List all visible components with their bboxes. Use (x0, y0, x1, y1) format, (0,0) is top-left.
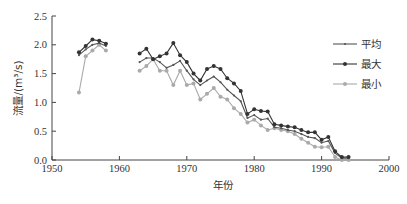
data-point (259, 123, 263, 127)
data-point (253, 114, 255, 116)
legend-marker-icon (343, 62, 347, 66)
data-point (219, 95, 223, 99)
legend: 平均最大最小 (333, 38, 382, 90)
legend-label: 最大 (361, 58, 382, 70)
y-ticks: 0.00.51.01.52.02.5 (34, 11, 56, 166)
data-point (259, 109, 263, 113)
data-point (165, 69, 169, 73)
data-point (300, 133, 302, 135)
data-point (267, 117, 269, 119)
y-tick-label: 0.5 (34, 126, 47, 137)
data-point (185, 83, 189, 87)
data-point (138, 51, 142, 55)
data-point (299, 137, 303, 141)
data-point (213, 75, 215, 77)
data-point (314, 137, 316, 139)
legend-item: 最大 (333, 58, 382, 70)
data-point (158, 54, 162, 58)
data-point (77, 50, 81, 54)
data-point (85, 48, 87, 50)
data-point (84, 54, 88, 58)
data-point (293, 125, 297, 129)
series-max (77, 38, 351, 160)
data-point (272, 122, 276, 126)
data-point (158, 69, 162, 73)
data-point (192, 81, 196, 85)
data-point (273, 126, 275, 128)
series-line (140, 58, 349, 158)
data-point (198, 79, 202, 83)
data-point (205, 67, 209, 71)
legend-label: 最小 (361, 78, 382, 90)
data-point (326, 145, 330, 149)
data-point (178, 53, 182, 57)
data-point (219, 67, 223, 71)
series-min (77, 43, 351, 162)
flow-chart: 0.00.51.01.52.02.5 195019601970198019902… (0, 0, 407, 204)
data-point (192, 72, 196, 76)
data-point (280, 127, 282, 129)
data-point (225, 98, 229, 102)
data-point (205, 92, 209, 96)
data-point (165, 51, 169, 55)
data-point (239, 112, 243, 116)
data-point (252, 118, 256, 122)
x-tick-label: 1990 (311, 163, 332, 174)
data-point (225, 76, 229, 80)
data-point (286, 125, 290, 129)
data-point (279, 123, 283, 127)
legend-item: 最小 (333, 78, 382, 90)
data-point (206, 79, 208, 81)
legend-label: 平均 (361, 38, 381, 50)
x-tick-label: 1960 (109, 163, 130, 174)
data-point (252, 107, 256, 111)
x-tick-label: 1970 (176, 163, 197, 174)
data-point (171, 83, 175, 87)
y-tick-label: 1.0 (34, 97, 47, 108)
y-tick-label: 2.5 (34, 11, 47, 22)
data-point (245, 121, 249, 125)
x-tick-label: 1950 (42, 163, 63, 174)
y-axis-title-text: 流量/(m³/s) (12, 60, 24, 115)
data-point (199, 84, 201, 86)
data-point (171, 41, 175, 45)
data-point (306, 141, 310, 145)
data-point (232, 81, 236, 85)
data-point (84, 44, 88, 48)
data-point (139, 61, 141, 63)
data-point (91, 44, 93, 46)
data-point (320, 145, 324, 149)
data-point (321, 142, 323, 144)
data-point (151, 57, 155, 61)
data-point (144, 47, 148, 51)
data-point (326, 135, 330, 139)
data-point (178, 69, 182, 73)
legend-marker-icon (343, 82, 347, 86)
y-tick-label: 1.5 (34, 68, 47, 79)
data-point (78, 54, 80, 56)
legend-marker-icon (344, 43, 346, 45)
data-point (226, 89, 228, 91)
data-point (77, 91, 81, 95)
data-point (212, 64, 216, 68)
data-point (145, 57, 147, 59)
data-point (260, 119, 262, 121)
data-point (144, 64, 148, 68)
data-point (320, 138, 324, 142)
data-point (245, 112, 249, 116)
legend-item: 平均 (333, 38, 381, 50)
data-point (347, 155, 351, 159)
data-point (340, 155, 344, 159)
data-point (294, 130, 296, 132)
series-layer (77, 38, 351, 162)
data-point (299, 128, 303, 132)
data-point (333, 155, 337, 159)
data-point (212, 86, 216, 90)
data-point (186, 70, 188, 72)
y-axis-title-unit: /(m³/s) (12, 60, 24, 95)
data-point (104, 49, 108, 53)
data-point (313, 145, 317, 149)
data-point (104, 42, 108, 46)
data-point (165, 67, 167, 69)
y-tick-label: 2.0 (34, 39, 47, 50)
